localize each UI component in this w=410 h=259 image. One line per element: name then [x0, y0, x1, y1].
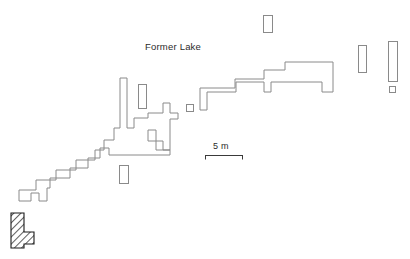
- scale-bar-label: 5 m: [213, 141, 229, 151]
- site-plan-figure: Former Lake 5 m: [0, 0, 410, 259]
- isolated-square-center: [187, 105, 194, 112]
- isolated-rectangle-right-b: [389, 42, 398, 82]
- former-lake-label: Former Lake: [145, 41, 201, 52]
- isolated-rectangle-upper-middle: [139, 85, 147, 109]
- eastern-terraced-wall-outline: [200, 62, 333, 110]
- hatched-structure: [11, 213, 34, 248]
- western-terraced-wall-outline: [19, 78, 178, 201]
- isolated-rectangle-right-a: [359, 46, 367, 73]
- isolated-rectangle-lower-middle: [120, 166, 129, 184]
- scale-bar: [205, 156, 243, 160]
- isolated-rectangle-top: [264, 16, 273, 33]
- isolated-square-right: [390, 87, 396, 93]
- site-plan-drawing: [0, 0, 410, 259]
